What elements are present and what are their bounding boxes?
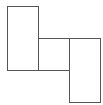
rectangles-diagram [0, 0, 103, 105]
middle-square [39, 39, 70, 71]
left-tall-rect [8, 7, 39, 71]
right-tall-rect [70, 39, 101, 103]
